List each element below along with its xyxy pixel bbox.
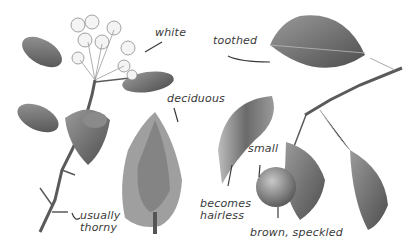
pear-illustration: white toothed deciduous small becomes ha… [0,0,416,245]
label-brown-speckled: brown, speckled [250,227,343,239]
label-deciduous: deciduous [167,93,225,105]
label-thorny: thorny [80,222,117,234]
tree-silhouette [122,112,182,234]
label-small: small [248,143,278,155]
label-hairless: hairless [200,210,244,222]
label-toothed: toothed [213,35,257,47]
label-white: white [155,27,186,39]
pear-fruit [256,167,296,207]
